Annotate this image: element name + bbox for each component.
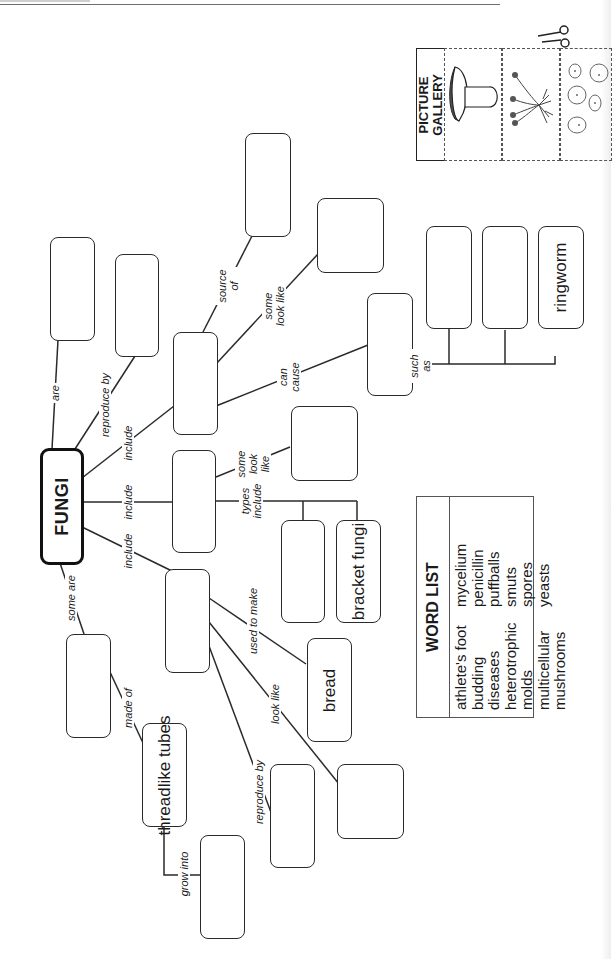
fungi-main-concept: FUNGI xyxy=(40,448,84,565)
word-item: heterotrophic xyxy=(503,607,520,710)
answer-box-such-as-ringworm[interactable]: ringworm xyxy=(538,226,584,329)
answer-box-bread[interactable]: bread xyxy=(307,638,352,742)
link-label-source-of: source of xyxy=(216,267,240,305)
picture-gallery-title: PICTURE GALLERY xyxy=(416,48,444,161)
answer-box-such-as-2[interactable] xyxy=(482,226,528,329)
link-label-some-are: some are xyxy=(65,573,77,623)
link-label-can-cause: can cause xyxy=(277,358,301,396)
mushroom-icon xyxy=(445,49,503,162)
answer-box-some-look-like-2[interactable] xyxy=(291,406,358,481)
word-item: budding xyxy=(470,607,487,710)
answer-box-some-look-like-1[interactable] xyxy=(317,198,384,273)
answer-box-are[interactable] xyxy=(50,237,95,341)
answer-box-source-of[interactable] xyxy=(245,133,291,237)
answer-box-bracket-fungi[interactable]: bracket fungi xyxy=(336,520,381,623)
link-label-types-include: types include xyxy=(239,479,263,523)
link-label-include-a: include xyxy=(122,424,134,463)
link-label-look-like: look like xyxy=(269,682,281,726)
word-item: mushrooms xyxy=(552,607,569,710)
link-label-reproduce-by: reproduce by xyxy=(99,371,111,439)
link-label-such-as: such as xyxy=(408,349,432,383)
word-item: molds xyxy=(519,607,536,710)
answer-box-include-3[interactable] xyxy=(165,569,210,673)
answer-box-threadlike-tubes[interactable]: threadlike tubes xyxy=(142,723,187,827)
gallery-cell-yeast[interactable] xyxy=(560,48,612,161)
word-item: mycelium xyxy=(453,504,470,607)
link-label-some-look-like-a: some look like xyxy=(262,279,286,333)
word-list: WORD LIST athlete's foot budding disease… xyxy=(416,496,534,718)
mold-sporangia-icon xyxy=(503,49,561,162)
word-item: penicillin xyxy=(470,504,487,607)
word-item: athlete's foot xyxy=(453,607,470,710)
link-label-include-c: include xyxy=(122,532,134,571)
word-item: smuts xyxy=(503,504,520,607)
yeast-cells-icon xyxy=(561,49,613,162)
link-label-used-to-make: used to make xyxy=(247,586,259,656)
word-list-column-1: athlete's foot budding diseases heterotr… xyxy=(453,607,569,710)
gallery-cell-mold[interactable] xyxy=(502,48,560,161)
answer-box-such-as-1[interactable] xyxy=(426,226,472,329)
link-label-made-of: made of xyxy=(122,686,134,730)
link-label-are: are xyxy=(49,383,61,403)
answer-box-some-are[interactable] xyxy=(66,634,111,738)
answer-box-types-include-1[interactable] xyxy=(281,520,325,623)
word-list-column-2: mycelium penicillin puffballs smuts spor… xyxy=(453,504,569,607)
link-label-grow-into: grow into xyxy=(178,850,190,899)
page-header-rule xyxy=(0,4,500,5)
answer-box-reproduce-by[interactable] xyxy=(115,254,159,357)
word-item: multicellular xyxy=(536,607,553,710)
link-label-some-look-like-b: some look like xyxy=(235,444,271,484)
answer-box-reproduce-by-2[interactable] xyxy=(270,764,315,868)
scissors-icon xyxy=(536,22,572,50)
page-header-rule-light xyxy=(0,0,90,2)
word-item: diseases xyxy=(486,607,503,710)
word-list-title: WORD LIST xyxy=(416,496,450,718)
link-label-reproduce-by-b: reproduce by xyxy=(253,758,265,826)
answer-box-look-like[interactable] xyxy=(337,764,404,839)
answer-box-can-cause[interactable] xyxy=(367,293,413,396)
link-label-include-b: include xyxy=(122,483,134,522)
fungi-label: FUNGI xyxy=(53,477,72,536)
answer-box-grow-into[interactable] xyxy=(200,835,245,939)
word-item: puffballs xyxy=(486,504,503,607)
gallery-cell-mushroom[interactable] xyxy=(444,48,502,161)
word-item: spores xyxy=(519,504,536,607)
word-item: yeasts xyxy=(536,504,553,607)
answer-box-include-1[interactable] xyxy=(173,332,218,435)
answer-box-include-2[interactable] xyxy=(172,450,216,553)
